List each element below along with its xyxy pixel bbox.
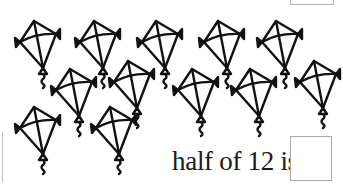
left-partial-box <box>0 132 3 182</box>
kite-icon <box>228 66 278 136</box>
kite-icon <box>292 58 342 128</box>
kite-icon <box>12 104 62 174</box>
question-prompt: half of 12 is <box>172 146 298 177</box>
answer-box[interactable] <box>290 136 332 181</box>
top-partial-box <box>290 0 334 5</box>
kite-icon <box>88 104 138 174</box>
kite-icon <box>170 66 220 136</box>
